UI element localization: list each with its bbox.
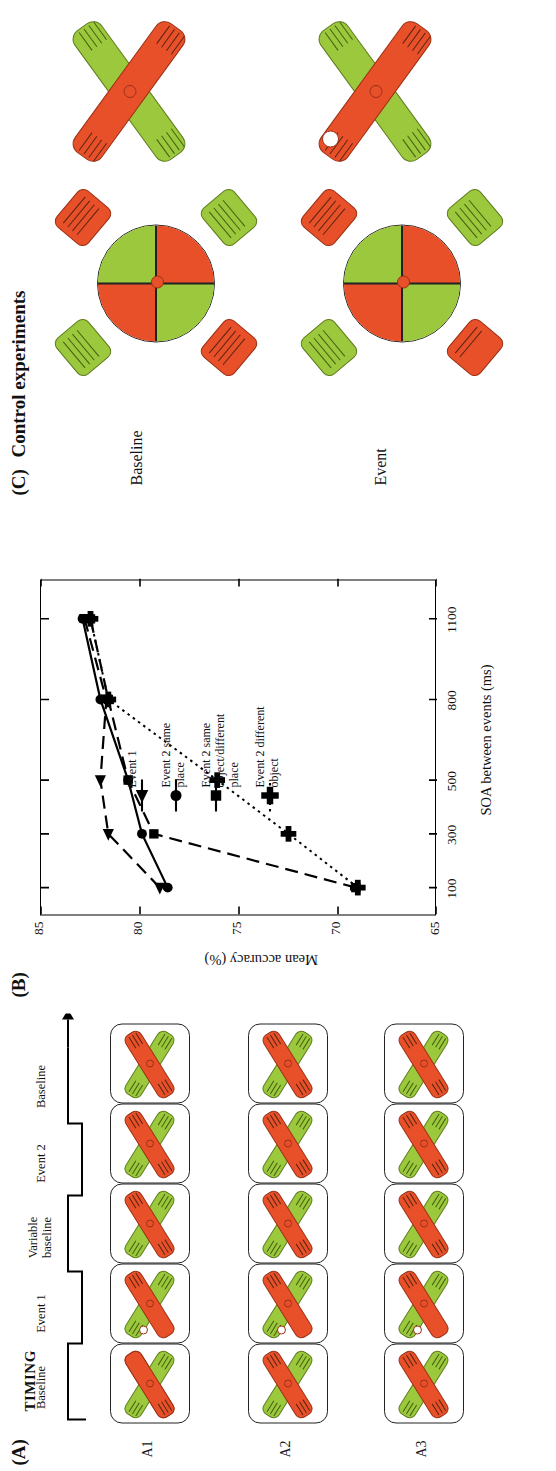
tines-icon [398, 22, 429, 53]
fixation-dot [370, 85, 383, 98]
legend-label-event2-same-place-l2: place [174, 762, 187, 787]
control-stimulus-x-baseline [46, 7, 214, 175]
tines-icon [126, 1192, 143, 1209]
fixation-dot [420, 1219, 428, 1227]
stimulus-card [248, 1343, 328, 1423]
fixation-dot [420, 1299, 428, 1307]
panel-a: (A) TIMING Baseline Event 1 Variable bas… [0, 1001, 556, 1471]
pie-hub [397, 276, 410, 289]
legend-label-event2-same-object-l2: object/different [214, 713, 227, 787]
y-tick-label: 85 [31, 921, 47, 949]
tines-icon [294, 1352, 311, 1369]
tines-icon [264, 1159, 281, 1176]
tines-icon [430, 1112, 447, 1129]
tines-icon [126, 1079, 143, 1096]
tines-icon [156, 1032, 173, 1049]
panel-c-title: Control experiments [8, 290, 30, 457]
tines-icon [264, 1192, 281, 1209]
tines-icon [400, 1079, 417, 1096]
tines-icon [156, 1192, 173, 1209]
tines-icon [294, 1079, 311, 1096]
tines-icon [126, 1032, 143, 1049]
fixation-dot [284, 1059, 292, 1067]
tines-icon [400, 1239, 417, 1256]
tines-icon [264, 1112, 281, 1129]
control-stimulus-pie-baseline [56, 183, 256, 383]
tines-icon [264, 1272, 281, 1289]
tines-icon [430, 1399, 447, 1416]
stimulus-card [384, 1343, 464, 1423]
stage-label-1: Event 1 [34, 1277, 49, 1349]
fixation-dot [284, 1379, 292, 1387]
tines-icon [156, 1239, 173, 1256]
event-notch [139, 1325, 148, 1334]
fixation-dot [284, 1299, 292, 1307]
event-notch [277, 1325, 286, 1334]
fixation-dot [146, 1299, 154, 1307]
tines-icon [126, 1159, 143, 1176]
tines-icon [264, 1239, 281, 1256]
legend-label-event1: Event 1 [126, 750, 139, 787]
stage-label-2-line1: Variable [26, 1197, 41, 1277]
tines-icon [264, 1352, 281, 1369]
tines-icon [126, 1112, 143, 1129]
tines-icon [430, 1352, 447, 1369]
stimulus-card [110, 1183, 190, 1263]
stimulus-card [248, 1023, 328, 1103]
fixation-dot [146, 1059, 154, 1067]
stimulus-card [110, 1343, 190, 1423]
tines-icon [430, 1192, 447, 1209]
tines-icon [294, 1239, 311, 1256]
y-tick-label: 70 [328, 921, 344, 949]
tines-icon [294, 1272, 311, 1289]
stimulus-card [384, 1103, 464, 1183]
stage-label-0: Baseline [34, 1351, 49, 1423]
x-tick-label: 1100 [444, 603, 460, 635]
tines-icon [156, 1352, 173, 1369]
legend-label-event2-same-object-l3: place [228, 762, 241, 787]
y-axis-title: Mean accuracy (%) [204, 950, 318, 967]
stimulus-card [110, 1103, 190, 1183]
y-tick-label: 65 [427, 921, 443, 949]
tines-icon [294, 1159, 311, 1176]
stage-label-3: Event 2 [34, 1127, 49, 1199]
tines-icon [321, 22, 352, 53]
fixation-dot [146, 1219, 154, 1227]
pie-hub [151, 276, 164, 289]
tines-icon [430, 1079, 447, 1096]
tines-icon [156, 1159, 173, 1176]
tines-icon [75, 129, 106, 160]
legend-label-event2-diff-object-l1: Event 2 different [254, 706, 267, 787]
legend-label-event2-same-place-l1: Event 2 same [160, 722, 173, 787]
tines-icon [398, 129, 429, 160]
fixation-dot [124, 85, 137, 98]
tines-icon [294, 1192, 311, 1209]
panel-c-label: (C) [8, 469, 30, 495]
fixation-dot [284, 1139, 292, 1147]
tines-icon [156, 1272, 173, 1289]
tines-icon [430, 1239, 447, 1256]
control-stimulus-pie-event [302, 183, 502, 383]
legend-label-event2-same-object-l1: Event 2 same [200, 722, 213, 787]
tines-icon [400, 1032, 417, 1049]
tines-icon [126, 1272, 143, 1289]
tines-icon [75, 22, 106, 53]
panel-c-row-label-baseline: Baseline [128, 430, 146, 485]
tines-icon [294, 1399, 311, 1416]
row-label-a1: A1 [140, 1440, 156, 1457]
stage-label-2-line2: baseline [40, 1197, 55, 1277]
tines-icon [400, 1352, 417, 1369]
stimulus-card [384, 1023, 464, 1103]
tines-icon [430, 1159, 447, 1176]
row-label-a2: A2 [278, 1440, 294, 1457]
tines-icon [264, 1079, 281, 1096]
stimulus-card [248, 1183, 328, 1263]
legend-label-event2-diff-object-l2: object [268, 758, 281, 787]
x-tick-label: 300 [444, 818, 460, 850]
control-stimulus-x-event [292, 7, 460, 175]
tines-icon [430, 1032, 447, 1049]
x-tick-label: 100 [444, 872, 460, 904]
tines-icon [294, 1032, 311, 1049]
fixation-dot [420, 1379, 428, 1387]
tines-icon [156, 1399, 173, 1416]
